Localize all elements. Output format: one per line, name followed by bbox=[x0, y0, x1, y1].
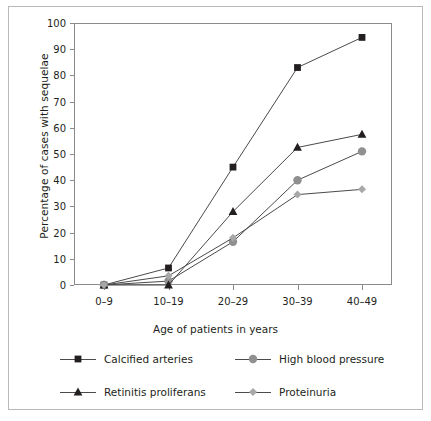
data-point-marker bbox=[230, 164, 237, 171]
legend-label: Retinitis proliferans bbox=[104, 386, 206, 398]
legend-entry-high-blood-pressure[interactable]: High blood pressure bbox=[235, 352, 420, 366]
legend-entry-retinitis-proliferans[interactable]: Retinitis proliferans bbox=[60, 385, 235, 399]
chart-plot-container: Percentage of cases with sequelae 010203… bbox=[0, 0, 431, 421]
data-point-marker bbox=[293, 176, 301, 184]
legend-marker-circle-icon bbox=[235, 352, 271, 366]
series-line bbox=[104, 37, 362, 285]
legend-entry-calcified-arteries[interactable]: Calcified arteries bbox=[60, 352, 235, 366]
series-calcified-arteries bbox=[101, 34, 366, 288]
legend-marker-diamond-icon bbox=[235, 385, 271, 399]
series-retinitis-proliferans bbox=[100, 130, 367, 289]
chart-figure: Percentage of cases with sequelae 010203… bbox=[0, 0, 431, 421]
data-point-marker bbox=[359, 34, 366, 41]
series-line bbox=[104, 151, 362, 285]
data-point-marker bbox=[358, 147, 366, 155]
legend-label: Calcified arteries bbox=[104, 353, 193, 365]
x-axis-title: Age of patients in years bbox=[0, 323, 431, 335]
legend-marker-square-icon bbox=[60, 352, 96, 366]
chart-legend: Calcified arteriesHigh blood pressureRet… bbox=[60, 352, 420, 399]
legend-marker-triangle-icon bbox=[60, 385, 96, 399]
legend-entry-proteinuria[interactable]: Proteinuria bbox=[235, 385, 420, 399]
data-point-marker bbox=[165, 265, 172, 272]
series-proteinuria bbox=[100, 185, 366, 289]
legend-label: Proteinuria bbox=[279, 386, 336, 398]
data-point-marker bbox=[358, 130, 367, 138]
data-point-marker bbox=[358, 185, 366, 193]
legend-label: High blood pressure bbox=[279, 353, 384, 365]
data-point-marker bbox=[294, 191, 302, 199]
data-point-marker bbox=[294, 64, 301, 71]
